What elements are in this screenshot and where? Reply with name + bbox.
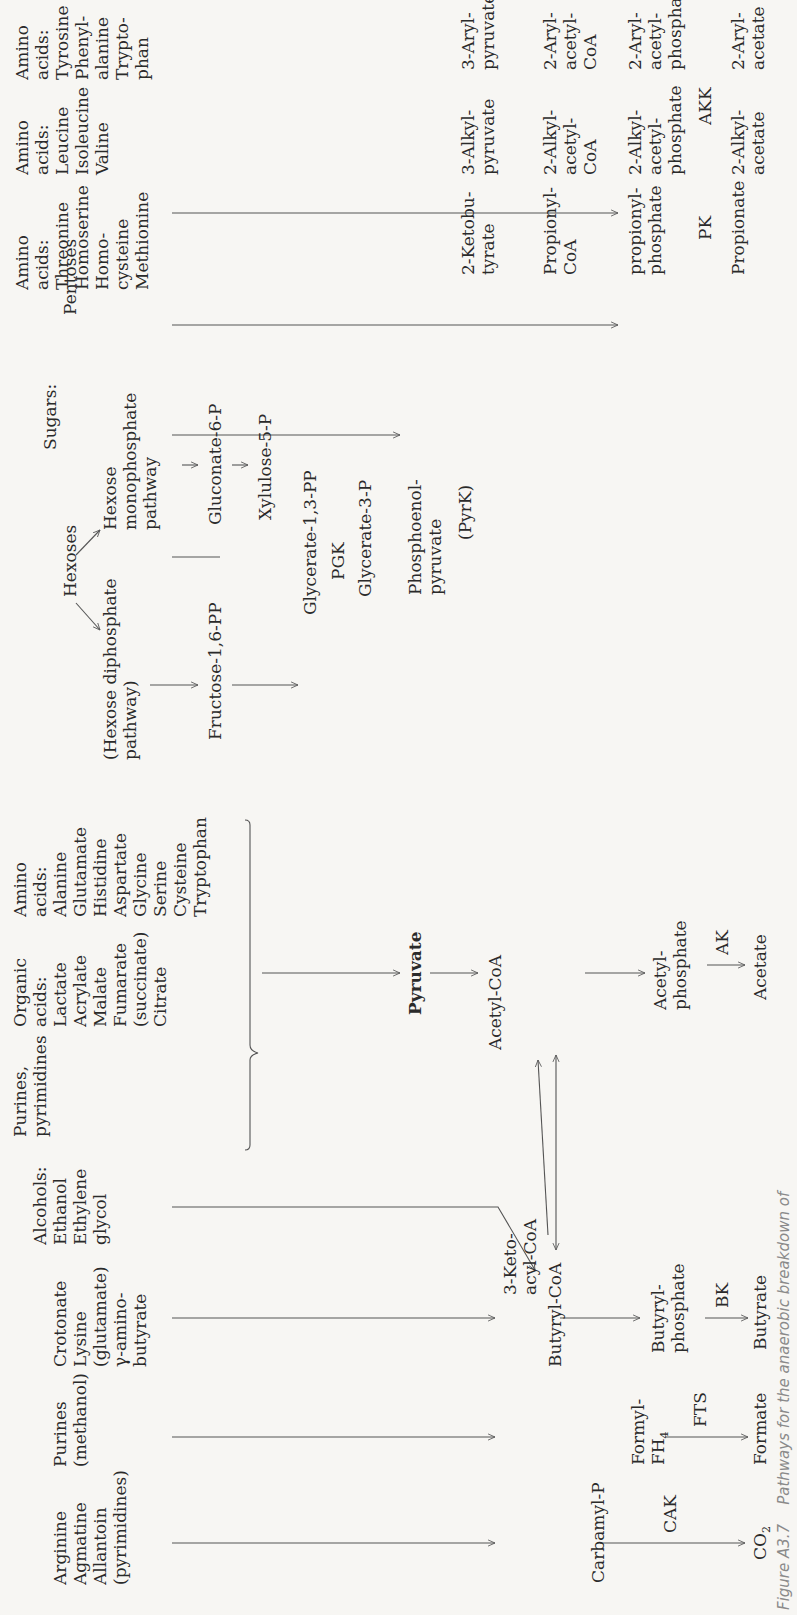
product-formate: Formate: [750, 1393, 770, 1465]
source-purines-methanol: Purines (methanol): [50, 1373, 90, 1467]
enzyme-bk: BK: [712, 1283, 732, 1308]
figure-caption-number: Figure A3.7: [775, 1524, 793, 1610]
node-2-alkyl-acetyl-coa: 2-Alkyl- acetyl- CoA: [540, 110, 600, 175]
enzyme-akk: AKK: [695, 87, 715, 125]
node-glycerate-3-p: Glycerate-3-P: [355, 480, 375, 597]
node-butyryl-coa: Butyryl-CoA: [545, 1263, 565, 1367]
node-3-alkyl-pyruvate: 3-Alkyl- pyruvate: [458, 99, 498, 175]
product-co2: CO2: [750, 1526, 777, 1560]
node-fructose-16-pp: Fructose-1,6-PP: [205, 602, 225, 740]
source-purines-pyrimidines: Purines, pyrimidines: [10, 1035, 50, 1137]
source-amino-acids-threonine: Amino acids: Threonine Homoserine Homo- …: [12, 185, 152, 290]
enzyme-fts: FTS: [690, 1392, 710, 1427]
source-arginine-group: Arginine Agmatine Allantoin (pyrimidines…: [50, 1470, 130, 1585]
node-glycerate-13-pp: Glycerate-1,3-PP: [300, 470, 320, 615]
node-phosphoenolpyruvate: Phosphoenol- pyruvate: [405, 479, 445, 595]
node-acetyl-coa: Acetyl-CoA: [485, 955, 505, 1050]
node-2-aryl-acetyl-coa: 2-Aryl- acetyl- CoA: [540, 12, 600, 70]
product-acetate: Acetate: [750, 934, 770, 1000]
figure-caption: Figure A3.7 Pathways for the anaerobic b…: [775, 1192, 793, 1610]
node-gluconate-6-p: Gluconate-6-P: [205, 404, 225, 525]
source-organic-acids: Organic acids: Lactate Acrylate Malate F…: [10, 932, 170, 1027]
product-propionate: Propionate: [728, 181, 748, 275]
node-carbamyl-p: Carbamyl-P: [588, 1482, 608, 1583]
source-sugars: Sugars:: [40, 384, 60, 450]
node-pyruvate: Pyruvate: [405, 931, 425, 1015]
node-acetyl-phosphate: Acetyl- phosphate: [650, 920, 690, 1010]
node-3-aryl-pyruvate: 3-Aryl- pyruvate: [458, 0, 498, 70]
source-amino-acids-group1: Amino acids: Alanine Glutamate Histidine…: [10, 817, 210, 917]
node-3-keto-acyl-coa: 3-Keto- acyl-CoA: [500, 1219, 540, 1295]
node-butyryl-phosphate: Butyryl- phosphate: [648, 1263, 688, 1353]
enzyme-pk: PK: [695, 216, 715, 240]
source-amino-acids-tyrosine: Amino acids: Tyrosine Phenyl- alanine Tr…: [12, 6, 152, 80]
figure-caption-text: Pathways for the anaerobic breakdown of: [775, 1192, 793, 1505]
product-2-aryl-acetate: 2-Aryl- acetate: [728, 6, 768, 70]
product-butyrate: Butyrate: [750, 1275, 770, 1350]
source-crotonate-group: Crotonate Lysine (glutamate) γ-amino- bu…: [50, 1266, 150, 1367]
hexose-monophosphate-pathway: Hexose monophosphate pathway: [100, 393, 160, 530]
node-propionyl-coa: Propionyl- CoA: [540, 187, 580, 275]
node-2-alkyl-acetyl-phosphate: 2-Alkyl- acetyl- phosphate: [625, 85, 685, 175]
node-2-aryl-acetyl-phosphate: 2-Aryl- acetyl- phosphate: [625, 0, 685, 70]
pathway-diagram: Arginine Agmatine Allantoin (pyrimidines…: [0, 0, 797, 1615]
product-2-alkyl-acetate: 2-Alkyl- acetate: [728, 110, 768, 175]
source-alcohols: Alcohols: Ethanol Ethylene glycol: [30, 1166, 110, 1245]
enzyme-ak: AK: [712, 930, 732, 955]
source-amino-acids-leucine: Amino acids: Leucine Isoleucine Valine: [12, 87, 112, 175]
source-hexoses: Hexoses: [60, 525, 80, 597]
enzyme-cak: CAK: [660, 1495, 680, 1533]
hexose-diphosphate-pathway: (Hexose diphosphate pathway): [100, 579, 140, 761]
node-2-ketobutyrate: 2-Ketobu- tyrate: [458, 191, 498, 275]
node-xylulose-5-p: Xylulose-5-P: [255, 414, 275, 520]
node-formyl-fh4: Formyl- FH4: [628, 1399, 675, 1465]
enzyme-pyrk: (PyrK): [455, 485, 475, 540]
enzyme-pgk: PGK: [328, 542, 348, 580]
node-propionyl-phosphate: propionyl- phosphate: [625, 185, 665, 275]
